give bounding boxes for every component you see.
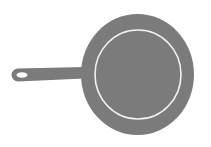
frying-pan-icon xyxy=(0,0,211,147)
handle-hanging-hole xyxy=(17,72,28,78)
frying-pan-illustration xyxy=(0,0,211,147)
pan-handle xyxy=(12,67,85,82)
pan-body xyxy=(81,14,194,135)
